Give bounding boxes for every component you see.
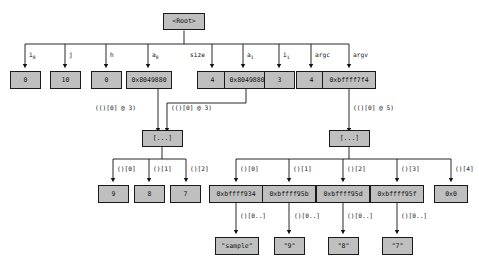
edge-label-h: h	[110, 52, 114, 59]
deref-label-a1: (()[0] @ 3)	[171, 105, 212, 111]
edge-label-a1: a1	[247, 52, 254, 59]
value-text: "sample"	[221, 243, 252, 250]
value-box-j[interactable]: 10	[50, 71, 81, 89]
value-text: "9"	[284, 243, 296, 250]
value-box-string-1[interactable]: "9"	[274, 237, 305, 255]
value-text: 0	[24, 77, 28, 84]
value-text: 0xbffff934	[216, 191, 255, 198]
value-box-int-1[interactable]: 8	[134, 185, 165, 203]
edge-label-i1: i1	[283, 52, 290, 59]
value-box-argv[interactable]: 0xbffff7f4	[322, 71, 376, 89]
value-text: 9	[112, 191, 116, 198]
value-box-i0[interactable]: 0	[10, 71, 41, 89]
value-box-argv-3[interactable]: 0xbffff95f	[370, 185, 424, 203]
value-text: 4	[310, 77, 314, 84]
value-box-argv-4[interactable]: 0x0	[434, 185, 468, 203]
value-box-string-0[interactable]: "sample"	[215, 237, 259, 255]
index-label-argv-2: ()[2]	[347, 166, 366, 172]
node-root-label: <Root>	[172, 18, 195, 25]
edge-label-size: size	[190, 52, 205, 59]
value-text: 0xbffff95d	[323, 191, 362, 198]
index-label-int-2: ()[2]	[190, 166, 209, 172]
edge-label-j: j	[69, 52, 73, 59]
deref-label-argv: (()[0] @ 5)	[353, 105, 394, 111]
value-text: 0	[105, 77, 109, 84]
value-text: 7	[184, 191, 188, 198]
connector-wires	[0, 0, 479, 270]
value-box-int-0[interactable]: 9	[98, 185, 129, 203]
value-text: 10	[62, 77, 70, 84]
node-argv-array[interactable]: [...]	[329, 130, 370, 147]
value-box-string-2[interactable]: "8"	[328, 237, 359, 255]
deref-label-string-3: ()[0..]	[401, 213, 427, 219]
node-label: [...]	[153, 135, 173, 142]
node-label: [...]	[340, 135, 360, 142]
value-text: "8"	[338, 243, 350, 250]
value-box-h[interactable]: 0	[91, 71, 122, 89]
edge-label-argv: argv	[353, 52, 368, 59]
edge-label-argc: argc	[315, 52, 330, 59]
value-box-argv-2[interactable]: 0xbffff95d	[316, 185, 370, 203]
deref-label-a0: (()[0] @ 3)	[95, 105, 136, 111]
value-box-string-3[interactable]: "7"	[382, 237, 413, 255]
node-root[interactable]: <Root>	[163, 13, 205, 30]
index-label-int-1: ()[1]	[153, 166, 172, 172]
index-label-argv-4: ()[4]	[455, 166, 474, 172]
value-text: 0xbffff7f4	[329, 77, 368, 84]
value-box-i1[interactable]: 3	[264, 71, 295, 89]
value-box-a0[interactable]: 0x8049880	[126, 71, 172, 89]
value-text: 0xbffff95b	[269, 191, 308, 198]
value-text: 4	[211, 77, 215, 84]
value-text: 8	[148, 191, 152, 198]
value-text: 3	[278, 77, 282, 84]
value-box-int-2[interactable]: 7	[170, 185, 201, 203]
index-label-argv-1: ()[1]	[293, 166, 312, 172]
index-label-argv-0: ()[0]	[240, 166, 259, 172]
value-text: 0x8049880	[229, 77, 264, 84]
value-text: 0xbffff95f	[377, 191, 416, 198]
deref-label-string-0: ()[0..]	[240, 213, 266, 219]
edge-label-i0: i0	[29, 52, 36, 59]
index-label-argv-3: ()[3]	[401, 166, 420, 172]
node-int-array[interactable]: [...]	[142, 130, 183, 147]
deref-label-string-1: ()[0..]	[294, 213, 320, 219]
value-box-argv-0[interactable]: 0xbffff934	[209, 185, 263, 203]
value-text: 0x8049880	[131, 77, 166, 84]
index-label-int-0: ()[0]	[117, 166, 136, 172]
edge-label-a0: a0	[152, 52, 159, 59]
value-text: "7"	[392, 243, 404, 250]
value-text: 0x0	[445, 191, 457, 198]
deref-label-string-2: ()[0..]	[347, 213, 373, 219]
value-box-argv-1[interactable]: 0xbffff95b	[262, 185, 316, 203]
memory-graph-diagram: <Root> i0 j h a0 size a1 i1 argc argv 0 …	[0, 0, 479, 270]
